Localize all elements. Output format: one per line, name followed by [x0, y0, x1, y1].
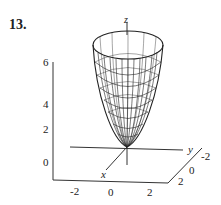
- depth-box-axis: [168, 148, 202, 183]
- vertical-tick-2: 2: [43, 124, 49, 135]
- vertical-tick-0: 0: [43, 157, 49, 168]
- y-axis-label: y: [188, 144, 193, 155]
- x-axis-label: x: [101, 169, 106, 180]
- vertical-tick-6: 6: [43, 57, 49, 68]
- bottom-tick-2: 2: [147, 187, 153, 198]
- z-axis-label: z: [124, 14, 128, 25]
- bottom-tick-neg2: -2: [70, 186, 79, 197]
- vertical-tick-4: 4: [43, 99, 49, 110]
- bottom-tick-0: 0: [108, 187, 114, 198]
- depth-tick-0: 0: [189, 165, 195, 176]
- paraboloid-plot: [0, 0, 221, 205]
- figure: 13.: [0, 0, 221, 205]
- bottom-box-axis: [53, 180, 168, 183]
- depth-tick-2: 2: [178, 176, 184, 187]
- paraboloid-mesh: [93, 31, 163, 147]
- x-axis-line: [106, 147, 127, 170]
- depth-tick-neg2: -2: [201, 151, 210, 162]
